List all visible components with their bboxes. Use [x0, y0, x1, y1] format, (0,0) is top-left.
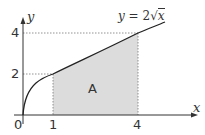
x-tick-1: 1 — [49, 118, 57, 131]
curve-eq-x: x — [158, 8, 165, 23]
y-axis-arrow-icon — [21, 17, 26, 24]
curve-eq-mid: = 2 — [129, 9, 151, 23]
sqrt-symbol-icon: √ — [150, 9, 158, 23]
y-axis-label: y — [27, 10, 34, 23]
x-axis-label: x — [193, 101, 200, 114]
region-label-a: A — [88, 82, 97, 95]
y-tick-4: 4 — [11, 26, 19, 39]
shaded-region-a — [53, 33, 138, 115]
origin-label: 0 — [14, 118, 22, 131]
curve-eq-y: y — [118, 9, 125, 23]
curve-equation-label: y = 2√x — [118, 9, 165, 23]
x-tick-4: 4 — [133, 118, 141, 131]
y-tick-2: 2 — [11, 67, 19, 80]
